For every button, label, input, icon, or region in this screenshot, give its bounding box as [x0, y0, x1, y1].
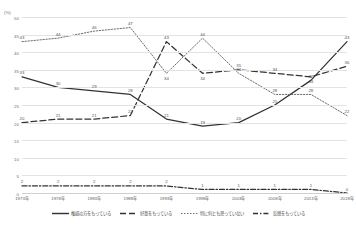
- legend-item[interactable]: 特に何とも思っていない: [181, 210, 245, 216]
- legend-item[interactable]: 反感をもっている: [253, 210, 305, 216]
- x-axis-tick-label: 1978年: [51, 195, 65, 201]
- gridline: 35: [22, 70, 347, 71]
- legend-swatch: [120, 211, 137, 216]
- series-line: [22, 42, 347, 123]
- legend-swatch: [253, 211, 270, 216]
- x-axis-tick-label: 2013年: [304, 195, 318, 201]
- y-axis-tick-label: 35: [14, 68, 19, 73]
- gridline: 50: [22, 17, 347, 18]
- gridline: 10: [22, 158, 347, 159]
- gridline: 5: [22, 175, 347, 176]
- x-axis-tick-label: 1998年: [196, 195, 210, 201]
- legend-label: 反感をもっている: [273, 210, 305, 216]
- y-axis-tick-label: 45: [14, 33, 19, 38]
- series-line: [22, 28, 347, 116]
- legend-label: 特に何とも思っていない: [200, 210, 244, 216]
- series-line: [22, 186, 347, 193]
- gridline: 40: [22, 52, 347, 53]
- x-axis-tick-label: 1988年: [124, 195, 138, 201]
- gridline: 30: [22, 87, 347, 88]
- x-axis-labels: 1973年1978年1983年1988年1993年1998年2003年2008年…: [22, 195, 347, 207]
- y-axis-tick-label: 5: [17, 174, 19, 179]
- gridline: 15: [22, 140, 347, 141]
- legend-label: 権威の方をもっている: [71, 210, 111, 216]
- y-axis-tick-label: 25: [14, 104, 19, 109]
- legend-item[interactable]: 権威の方をもっている: [52, 210, 112, 216]
- x-axis-tick-label: 1973年: [15, 195, 29, 201]
- series-line: [22, 42, 347, 126]
- y-axis-tick-label: 10: [14, 156, 19, 161]
- line-chart: (%) 051015202530354045503330292821192025…: [0, 0, 356, 228]
- plot-area: 0510152025303540455033302928211920253243…: [22, 17, 347, 193]
- y-axis-tick-label: 50: [14, 16, 19, 21]
- gridline: 45: [22, 35, 347, 36]
- y-axis-tick-label: 15: [14, 139, 19, 144]
- gridline: 0: [22, 193, 347, 194]
- legend-item[interactable]: 好意をもっている: [120, 210, 172, 216]
- legend-swatch: [181, 211, 198, 216]
- x-axis-tick-label: 2018年: [340, 195, 354, 201]
- x-axis-tick-label: 2008年: [268, 195, 282, 201]
- y-axis-tick-label: 20: [14, 121, 19, 126]
- chart-legend: 権威の方をもっている好意をもっている特に何とも思っていない反感をもっている: [0, 210, 356, 216]
- legend-label: 好意をもっている: [140, 210, 172, 216]
- gridline: 25: [22, 105, 347, 106]
- y-axis-tick-label: 30: [14, 86, 19, 91]
- x-axis-tick-label: 1983年: [87, 195, 101, 201]
- x-axis-tick-label: 2003年: [232, 195, 246, 201]
- y-axis-unit-label: (%): [4, 10, 11, 15]
- x-axis-tick-label: 1993年: [160, 195, 174, 201]
- legend-swatch: [52, 211, 69, 216]
- y-axis-tick-label: 40: [14, 51, 19, 56]
- gridline: 20: [22, 123, 347, 124]
